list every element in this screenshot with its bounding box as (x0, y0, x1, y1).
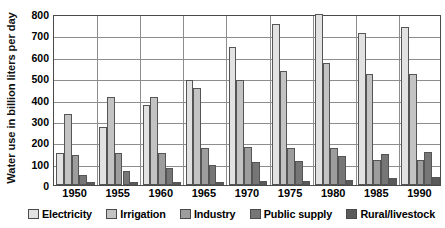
y-tick-label: 100 (31, 159, 49, 171)
bar-industry-1965 (201, 148, 209, 185)
x-tick-label-1955: 1955 (105, 187, 129, 199)
x-tick-label-1980: 1980 (321, 187, 345, 199)
y-tick-label: 400 (31, 95, 49, 107)
bar-electricity-1975 (272, 24, 280, 185)
legend-swatch-icon-rural-livestock (346, 209, 357, 219)
bar-rural-livestock-1990 (432, 177, 440, 185)
bar-industry-1950 (72, 155, 80, 185)
bar-rural-livestock-1970 (260, 181, 268, 185)
legend-label-irrigation: Irrigation (120, 208, 165, 220)
bar-industry-1975 (287, 148, 295, 185)
y-tick-label: 800 (31, 9, 49, 21)
x-tick-label-1975: 1975 (278, 187, 302, 199)
bar-public-supply-1985 (381, 154, 389, 185)
bar-group-1985 (356, 16, 399, 185)
bar-irrigation-1950 (64, 114, 72, 185)
bar-public-supply-1970 (252, 162, 260, 185)
bar-irrigation-1965 (193, 88, 201, 185)
bar-irrigation-1985 (366, 74, 374, 185)
legend-swatch-icon-industry (180, 209, 191, 219)
bar-public-supply-1980 (338, 156, 346, 185)
bar-industry-1985 (373, 160, 381, 185)
water-use-bar-chart: Water use in billion liters per day 8007… (0, 0, 445, 228)
x-tick-label-1970: 1970 (235, 187, 259, 199)
bar-public-supply-1975 (295, 161, 303, 185)
bar-rural-livestock-1985 (389, 178, 397, 185)
bar-public-supply-1950 (79, 175, 87, 185)
bar-industry-1955 (115, 153, 123, 185)
legend-label-public-supply: Public supply (264, 208, 332, 220)
y-axis-title-text: Water use in billion liters per day (5, 12, 17, 183)
bar-irrigation-1990 (409, 74, 417, 185)
bar-group-1960 (140, 16, 183, 185)
chart-legend: ElectricityIrrigationIndustryPublic supp… (24, 205, 439, 223)
bar-rural-livestock-1950 (87, 182, 95, 185)
y-tick-label: 500 (31, 73, 49, 85)
legend-swatch-icon-irrigation (106, 209, 117, 219)
bars-layer (54, 16, 440, 185)
y-tick-label: 200 (31, 137, 49, 149)
bar-irrigation-1960 (150, 97, 158, 185)
bar-electricity-1965 (186, 80, 194, 185)
bar-group-1965 (183, 16, 226, 185)
y-tick-label: 600 (31, 52, 49, 64)
bar-rural-livestock-1980 (346, 180, 354, 185)
plot-area (53, 15, 441, 186)
x-tick-label-1965: 1965 (192, 187, 216, 199)
legend-label-industry: Industry (194, 208, 235, 220)
legend-swatch-icon-electricity (28, 209, 39, 219)
x-tick-label-1985: 1985 (364, 187, 388, 199)
bar-public-supply-1955 (123, 171, 131, 185)
legend-item-electricity[interactable]: Electricity (28, 208, 92, 220)
bar-public-supply-1965 (209, 165, 217, 185)
legend-label-rural-livestock: Rural/livestock (360, 208, 435, 220)
bar-group-1990 (399, 16, 442, 185)
bar-industry-1970 (244, 147, 252, 185)
bar-irrigation-1980 (323, 63, 331, 185)
bar-industry-1960 (158, 153, 166, 185)
bar-public-supply-1960 (166, 168, 174, 185)
bar-irrigation-1955 (107, 97, 115, 185)
x-tick-label-1960: 1960 (149, 187, 173, 199)
bar-electricity-1955 (99, 127, 107, 185)
bar-rural-livestock-1975 (303, 181, 311, 185)
legend-item-industry[interactable]: Industry (180, 208, 235, 220)
legend-item-public-supply[interactable]: Public supply (250, 208, 332, 220)
bar-electricity-1950 (56, 153, 64, 185)
y-axis-title: Water use in billion liters per day (0, 0, 22, 196)
y-axis-tick-labels: 8007006005004003002001000 (22, 15, 52, 186)
bar-industry-1990 (417, 160, 425, 185)
bar-group-1950 (54, 16, 97, 185)
bar-rural-livestock-1965 (216, 182, 224, 185)
bar-rural-livestock-1955 (130, 182, 138, 185)
bar-irrigation-1970 (236, 80, 244, 185)
bar-group-1970 (226, 16, 269, 185)
bar-electricity-1985 (358, 33, 366, 185)
bar-group-1955 (97, 16, 140, 185)
y-tick-label: 0 (43, 180, 49, 192)
bar-rural-livestock-1960 (173, 182, 181, 185)
bar-industry-1980 (330, 148, 338, 185)
bar-irrigation-1975 (280, 71, 288, 185)
x-tick-label-1950: 1950 (62, 187, 86, 199)
legend-item-rural-livestock[interactable]: Rural/livestock (346, 208, 435, 220)
bar-group-1980 (313, 16, 356, 185)
bar-electricity-1960 (143, 105, 151, 185)
x-axis-tick-labels: 195019551960196519701975198019851990 (53, 187, 441, 203)
legend-swatch-icon-public-supply (250, 209, 261, 219)
legend-label-electricity: Electricity (42, 208, 92, 220)
y-tick-label: 700 (31, 30, 49, 42)
bar-electricity-1970 (229, 47, 237, 185)
y-tick-label: 300 (31, 116, 49, 128)
bar-electricity-1980 (315, 14, 323, 185)
x-tick-label-1990: 1990 (407, 187, 431, 199)
bar-public-supply-1990 (424, 152, 432, 185)
bar-electricity-1990 (401, 27, 409, 185)
legend-item-irrigation[interactable]: Irrigation (106, 208, 165, 220)
bar-group-1975 (270, 16, 313, 185)
